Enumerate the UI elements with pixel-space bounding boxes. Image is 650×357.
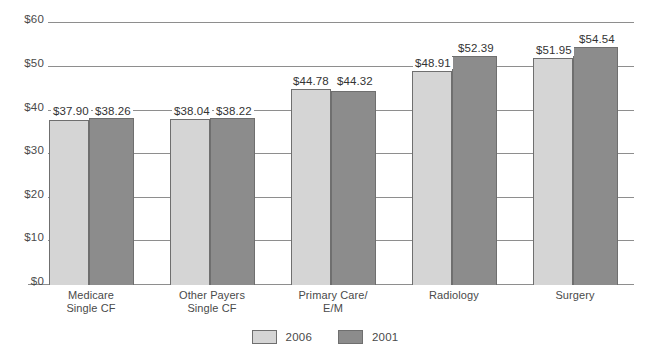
legend-item-2001[interactable]: 2001 [338, 330, 398, 344]
legend-swatch-2006-icon [252, 330, 277, 344]
bar-value-2006-radiology: $48.91 [413, 57, 453, 69]
category-label-other-payers-single-cf: Other Payers Single CF [152, 289, 272, 315]
bar-value-2001-surgery: $54.54 [577, 33, 617, 45]
category-label-surgery: Surgery [515, 289, 635, 302]
bar-value-2006-other-payers-single-cf: $38.04 [172, 105, 212, 117]
plot-area: $60 $50 $40 $30 $20 $10 $0 $37.90 $38.26… [0, 0, 650, 300]
category-label-radiology: Radiology [394, 289, 514, 302]
chart-legend: 2006 2001 [0, 330, 650, 344]
bar-value-2001-other-payers-single-cf: $38.22 [214, 105, 254, 117]
ytick-label-30: $30 [2, 144, 44, 156]
bar-value-2001-primary-care-em: $44.32 [335, 75, 375, 87]
category-label-medicare-single-cf: Medicare Single CF [31, 289, 151, 315]
bar-2006-primary-care-em[interactable] [291, 89, 331, 285]
bar-value-2006-primary-care-em: $44.78 [291, 75, 331, 87]
bar-value-2001-medicare-single-cf: $38.26 [93, 105, 133, 117]
ytick-label-20: $20 [2, 188, 44, 200]
legend-label-2001: 2001 [372, 331, 398, 343]
ytick-label-0: $0 [2, 275, 44, 287]
bar-2006-other-payers-single-cf[interactable] [170, 119, 210, 285]
bar-2001-other-payers-single-cf[interactable] [210, 118, 255, 285]
ytick-label-60: $60 [2, 13, 44, 25]
bar-value-2006-medicare-single-cf: $37.90 [51, 105, 91, 117]
bar-value-2001-radiology: $52.39 [456, 42, 496, 54]
gridline-60 [48, 22, 634, 23]
bar-2006-medicare-single-cf[interactable] [49, 120, 89, 285]
bar-2006-surgery[interactable] [533, 58, 573, 285]
bar-2001-medicare-single-cf[interactable] [89, 118, 134, 285]
bar-chart: $60 $50 $40 $30 $20 $10 $0 $37.90 $38.26… [0, 0, 650, 357]
bar-2006-radiology[interactable] [412, 71, 452, 285]
legend-item-2006[interactable]: 2006 [252, 330, 312, 344]
bar-2001-primary-care-em[interactable] [331, 91, 376, 285]
ytick-label-50: $50 [2, 57, 44, 69]
legend-label-2006: 2006 [286, 331, 312, 343]
ytick-label-10: $10 [2, 231, 44, 243]
legend-swatch-2001-icon [338, 330, 363, 344]
category-label-primary-care-em: Primary Care/ E/M [273, 289, 393, 315]
bar-value-2006-surgery: $51.95 [534, 44, 574, 56]
bar-2001-radiology[interactable] [452, 56, 497, 285]
bar-2001-surgery[interactable] [573, 47, 618, 285]
ytick-label-40: $40 [2, 101, 44, 113]
